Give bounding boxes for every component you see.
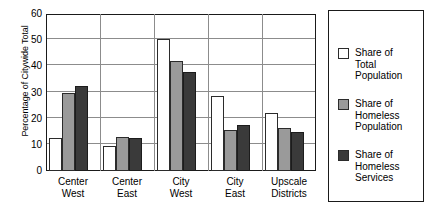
bar: [129, 138, 142, 171]
legend-swatch: [338, 99, 349, 110]
bar: [224, 130, 237, 171]
y-axis-tick-label: 0: [8, 166, 42, 176]
legend-swatch: [338, 48, 349, 59]
y-axis-tick-label: 20: [8, 114, 42, 124]
legend-swatch: [338, 150, 349, 161]
group-separator: [154, 14, 155, 171]
bar-group: [100, 14, 154, 171]
bar: [75, 86, 88, 171]
group-separator: [262, 14, 263, 171]
legend-item: Share ofTotalPopulation: [338, 47, 422, 82]
legend: Share ofTotalPopulationShare ofHomelessP…: [328, 10, 424, 202]
bar-groups: [46, 14, 316, 171]
bar-group: [154, 14, 208, 171]
group-separator: [100, 14, 101, 171]
legend-item: Share ofHomelessPopulation: [338, 98, 422, 133]
y-axis-tick-label: 30: [8, 88, 42, 98]
bar-chart: Percentage of Citywide Total 01020304050…: [0, 0, 431, 217]
y-axis-tick-label: 40: [8, 61, 42, 71]
bar: [278, 128, 291, 171]
bar: [170, 61, 183, 171]
bar: [49, 138, 62, 171]
legend-label: Share ofHomelessServices: [355, 149, 399, 184]
group-separator: [208, 14, 209, 171]
bar: [265, 113, 278, 171]
y-axis-tick-label: 60: [8, 9, 42, 19]
legend-label: Share ofTotalPopulation: [355, 47, 402, 82]
legend-label: Share ofHomelessPopulation: [355, 98, 402, 133]
bar: [183, 72, 196, 171]
bar-group: [46, 14, 100, 171]
bar-group: [208, 14, 262, 171]
bar: [157, 39, 170, 171]
y-axis-tick-label: 10: [8, 140, 42, 150]
bar: [103, 146, 116, 171]
bar: [291, 132, 304, 171]
bar: [116, 137, 129, 171]
bar: [237, 125, 250, 171]
bar: [62, 93, 75, 172]
bar: [211, 96, 224, 171]
bar-group: [262, 14, 316, 171]
legend-item: Share ofHomelessServices: [338, 149, 422, 184]
x-axis-category-label: UpscaleDistricts: [254, 176, 324, 200]
y-axis-tick-label: 50: [8, 35, 42, 45]
